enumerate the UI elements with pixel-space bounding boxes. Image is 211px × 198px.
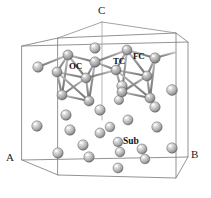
cluster-atom-sphere [117, 87, 127, 97]
atom-sphere [113, 137, 123, 147]
atom-sphere [90, 43, 100, 53]
cluster-atom-sphere [150, 53, 160, 63]
atom-sphere [140, 154, 150, 164]
cluster-atom-sphere [122, 45, 132, 55]
atom-sphere [115, 147, 125, 157]
cluster-atom-sphere [81, 73, 91, 83]
atom-sphere [95, 105, 105, 115]
atom-sphere [32, 121, 42, 131]
cluster-atom-sphere [57, 90, 67, 100]
atom-sphere [65, 125, 75, 135]
axis-label-a: A [6, 152, 14, 163]
atom-sphere [84, 152, 94, 162]
site-label-sub: Sub [123, 137, 139, 147]
atom-sphere [150, 102, 160, 112]
atom-sphere [167, 143, 177, 153]
atom-sphere [113, 163, 123, 173]
unit-cell-scene [0, 0, 211, 198]
axis-label-c: C [98, 5, 105, 16]
axis-label-b: B [191, 149, 198, 160]
site-label-fc: FC [133, 52, 145, 61]
cluster-atom-sphere [111, 65, 121, 75]
cluster-atom-sphere [63, 50, 73, 60]
atom-sphere [123, 115, 133, 125]
site-label-oc: OC [69, 62, 82, 71]
atom-sphere [152, 122, 162, 132]
unit-cell-wireframe [22, 22, 188, 178]
crystal-structure-figure: A B C OC TC FC Sub [0, 0, 211, 198]
atom-sphere [61, 110, 71, 120]
atom-sphere [33, 62, 43, 72]
site-label-tc: TC [113, 57, 125, 66]
atom-sphere [167, 85, 178, 96]
atom-sphere [53, 148, 63, 158]
cluster-atom-sphere [142, 71, 152, 81]
atom-sphere [105, 122, 115, 132]
cluster-atom-sphere [90, 57, 100, 67]
atom-sphere [95, 128, 105, 138]
cluster-atom-sphere [84, 96, 94, 106]
cluster-atom-sphere [145, 93, 155, 103]
cluster-atom-sphere [52, 67, 62, 77]
atom-sphere [78, 140, 88, 150]
